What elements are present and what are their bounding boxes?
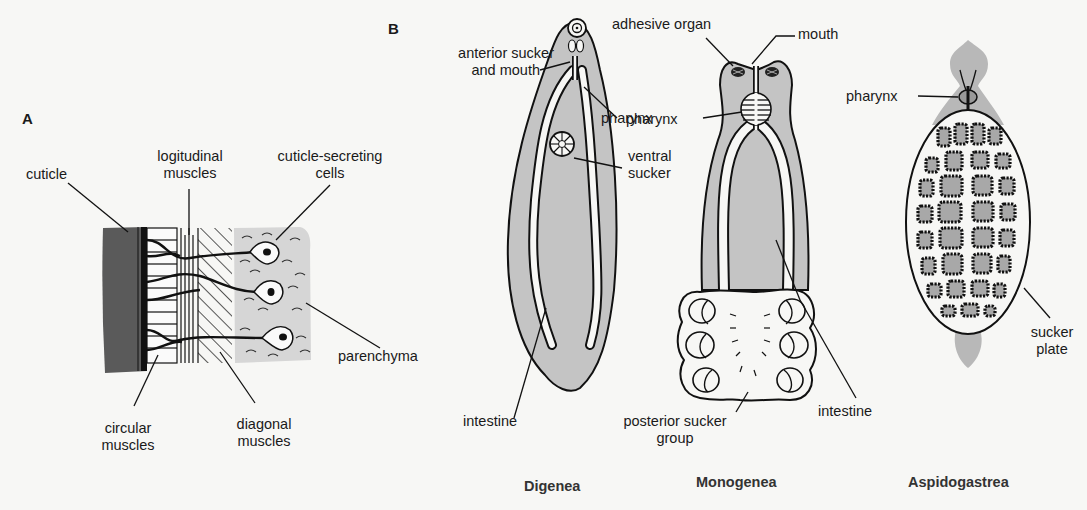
label-monogenea-pharynx: pharynx [601, 110, 653, 127]
caption-aspidogastrea: Aspidogastrea [908, 474, 1009, 490]
caption-monogenea: Monogenea [696, 474, 777, 490]
caption-digenea: Digenea [524, 478, 580, 494]
aspidogastrea-figure [906, 40, 1050, 368]
label-posterior-sucker-group: posterior sucker group [600, 413, 750, 447]
diagonal-muscles [198, 228, 232, 363]
cell-nucleus [268, 288, 275, 296]
body-wall-section [68, 183, 380, 406]
label-circular-muscles: circular muscles [88, 420, 168, 454]
monogenea-pharynx [741, 93, 771, 125]
label-mouth: mouth [798, 26, 838, 43]
cell-nucleus [263, 249, 271, 256]
panel-letter-a: A [22, 110, 33, 127]
label-aspidogastrea-pharynx: pharynx [846, 88, 898, 105]
cuticle-layer [102, 227, 147, 373]
cell-nucleus [279, 334, 287, 341]
longitudinal-muscles [181, 228, 193, 363]
label-sucker-plate: sucker plate [1022, 324, 1082, 358]
posterior-sucker-group [678, 289, 816, 400]
ventral-sucker [550, 132, 574, 156]
label-longitudinal-muscles: logitudinal muscles [140, 148, 240, 182]
panel-letter-b: B [388, 20, 399, 37]
label-digenea-intestine: intestine [463, 413, 517, 430]
label-cuticle: cuticle [26, 166, 67, 183]
label-adhesive-organ: adhesive organ [612, 16, 711, 33]
label-parenchyma: parenchyma [338, 348, 418, 365]
monogenea-figure [678, 36, 856, 412]
label-monogenea-intestine: intestine [818, 403, 872, 420]
label-anterior-sucker-and-mouth: anterior sucker and mouth [414, 45, 554, 79]
label-ventral-sucker: ventral sucker [628, 148, 672, 182]
label-diagonal-muscles: diagonal muscles [222, 416, 306, 450]
label-cuticle-secreting-cells: cuticle-secreting cells [265, 148, 395, 182]
